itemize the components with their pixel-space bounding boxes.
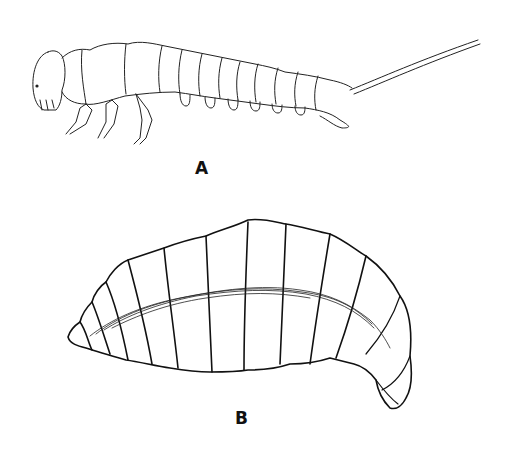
panel-label-a: A xyxy=(195,160,208,177)
figure: A B xyxy=(0,0,512,452)
larva-illustrations xyxy=(0,0,512,452)
larva-b-drawing xyxy=(68,219,411,408)
larva-a-drawing xyxy=(33,40,480,144)
panel-label-b: B xyxy=(235,410,248,427)
larva-b-lateral-line xyxy=(90,288,390,348)
